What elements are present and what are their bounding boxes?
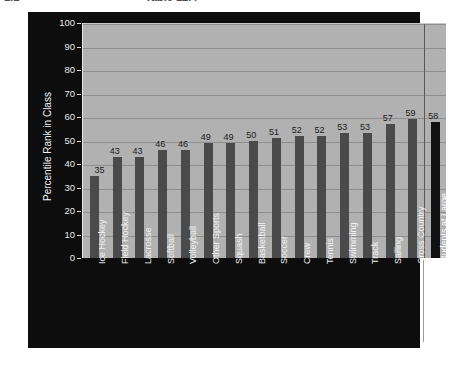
x-axis-tick-label: Students at Large — [439, 193, 449, 264]
y-axis-tick-label: 0 — [70, 253, 75, 262]
x-axis-tick-label: Volleyball — [188, 226, 198, 264]
figure-number: 1.1 — [4, 0, 19, 3]
gridline — [83, 24, 446, 25]
bar-value-label: 53 — [337, 122, 347, 132]
y-axis-tick-label: 70 — [64, 89, 75, 98]
bar-value-label: 59 — [405, 108, 415, 118]
y-axis-title: Percentile Rank in Class — [42, 92, 53, 201]
bar-value-label: 43 — [110, 146, 120, 156]
y-axis-tick-mark — [77, 164, 81, 165]
bar-value-label: 58 — [428, 111, 438, 121]
y-axis-tick-mark — [77, 47, 81, 48]
x-axis-tick-label: Soccer — [279, 236, 289, 264]
y-axis-tick-mark — [77, 23, 81, 24]
y-axis-tick-mark — [77, 188, 81, 189]
y-axis-tick-mark — [77, 258, 81, 259]
figure-title: Table 12.4 — [145, 0, 197, 3]
bar[interactable] — [295, 136, 304, 258]
y-axis-tick-label: 30 — [64, 183, 75, 192]
x-axis-tick-label: Squash — [234, 233, 244, 264]
bar-value-label: 52 — [292, 125, 302, 135]
x-axis-tick-label: Sailing — [393, 237, 403, 264]
x-axis-tick-label: Tennis — [325, 238, 335, 264]
y-axis-tick-label: 90 — [64, 42, 75, 51]
x-axis-tick-label: Swimming — [348, 222, 358, 264]
y-axis-tick-mark — [77, 211, 81, 212]
bar-value-label: 35 — [94, 165, 104, 175]
x-axis-tick-label: Other Sports — [211, 213, 221, 264]
y-axis-tick-label: 60 — [64, 112, 75, 121]
y-axis-tick-label: 40 — [64, 159, 75, 168]
bar-chart: Percentile Rank in Class 010203040506070… — [0, 7, 430, 367]
bar-value-label: 57 — [383, 113, 393, 123]
bar-value-label: 49 — [223, 132, 233, 142]
x-axis-tick-label: Basketball — [257, 222, 267, 264]
y-axis-tick-label: 80 — [64, 65, 75, 74]
y-axis-tick-mark — [77, 235, 81, 236]
y-axis-tick-label: 100 — [59, 18, 75, 27]
x-axis-tick-label: Field Hockey — [120, 212, 130, 264]
bar-value-label: 46 — [178, 139, 188, 149]
gridline — [83, 95, 446, 96]
chart-panel: Percentile Rank in Class 010203040506070… — [28, 12, 420, 348]
x-axis-tick-label: Lacrosse — [143, 227, 153, 264]
x-axis-tick-label: Cross Country — [416, 206, 426, 264]
bar-value-label: 46 — [155, 139, 165, 149]
x-axis-tick-label: Softball — [166, 234, 176, 264]
figure-title-strip: 1.1 Table 12.4 — [0, 0, 430, 7]
y-axis-tick-label: 10 — [64, 230, 75, 239]
y-axis-tick-mark — [77, 117, 81, 118]
y-axis-tick-mark — [77, 94, 81, 95]
y-axis-tick-mark — [77, 70, 81, 71]
x-axis-group-divider — [423, 260, 424, 342]
gridline — [83, 71, 446, 72]
x-axis-tick-label: Ice Hockey — [97, 219, 107, 264]
y-axis-tick-mark — [77, 141, 81, 142]
bar[interactable] — [363, 133, 372, 258]
gridline — [83, 48, 446, 49]
bar-value-label: 52 — [314, 125, 324, 135]
bar-value-label: 43 — [132, 146, 142, 156]
y-axis-tick-label: 20 — [64, 206, 75, 215]
bar-value-label: 51 — [269, 127, 279, 137]
y-axis-tick-label: 50 — [64, 136, 75, 145]
x-axis-tick-label: Crew — [302, 243, 312, 264]
bar-value-label: 53 — [360, 122, 370, 132]
bar-value-label: 49 — [201, 132, 211, 142]
bar-value-label: 50 — [246, 130, 256, 140]
x-axis-tick-label: Track — [370, 242, 380, 264]
